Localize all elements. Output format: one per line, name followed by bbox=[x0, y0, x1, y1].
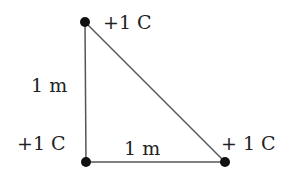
charge-label-bottom-left: +1 C bbox=[17, 134, 66, 153]
charge-label-bottom-right: + 1 C bbox=[221, 134, 276, 153]
charge-dot-top bbox=[80, 17, 90, 27]
triangle-charge-diagram: +1 C +1 C + 1 C 1 m 1 m bbox=[0, 0, 295, 179]
charge-dot-bottom-left bbox=[81, 157, 91, 167]
charge-label-top: +1 C bbox=[103, 13, 152, 32]
side-label-bottom: 1 m bbox=[124, 139, 160, 158]
side-label-left: 1 m bbox=[31, 76, 67, 95]
left-side-line bbox=[85, 22, 86, 162]
charge-dot-bottom-right bbox=[220, 157, 230, 167]
